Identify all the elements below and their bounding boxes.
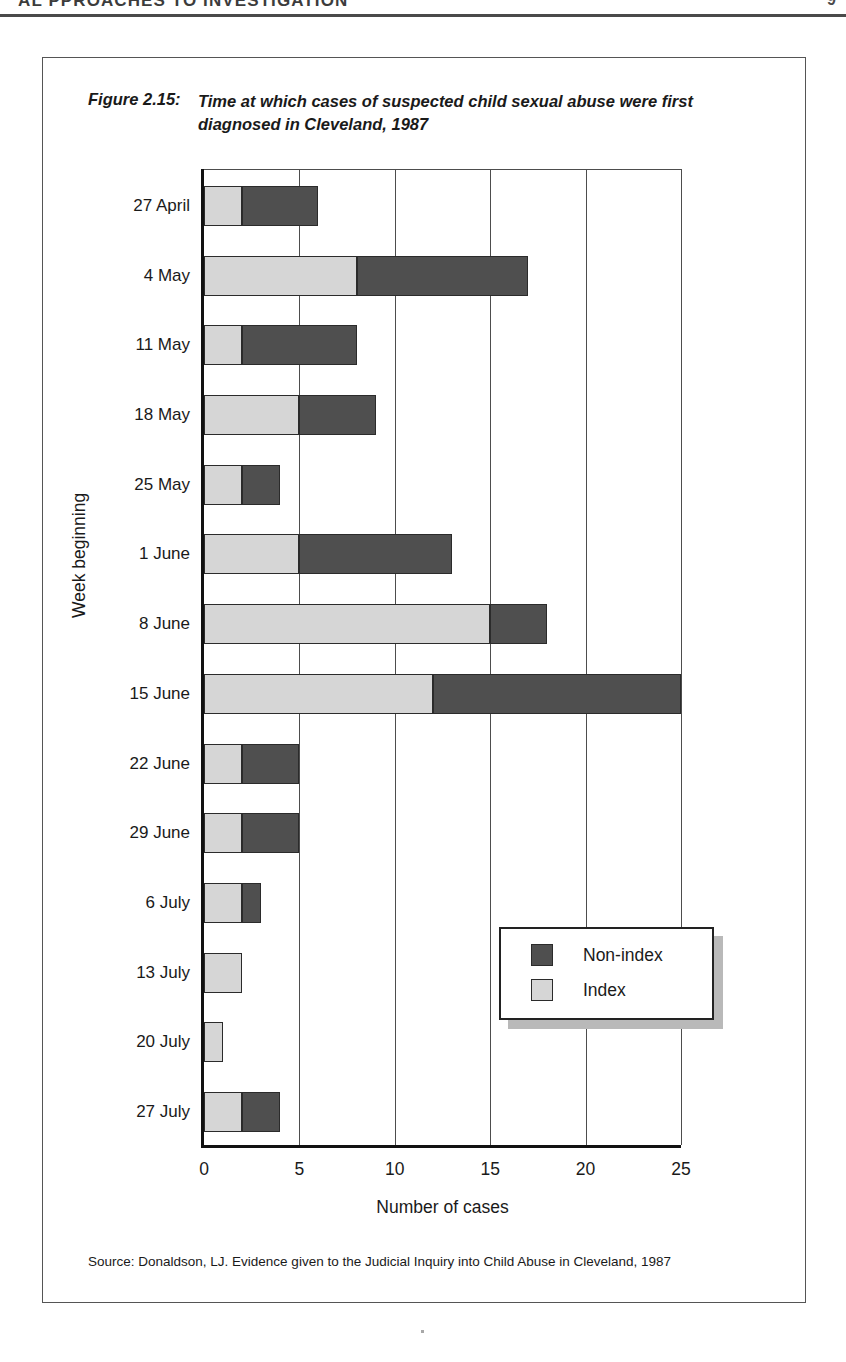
bar-row: [204, 883, 681, 923]
y-tick-label-29-june: 29 June: [130, 813, 191, 853]
legend-box: Non-index Index: [499, 927, 714, 1020]
bar-row: [204, 1092, 681, 1132]
bar-segment-non-index: [299, 395, 375, 435]
index-swatch: [531, 979, 553, 1001]
y-tick-label-25-may: 25 May: [134, 465, 190, 505]
legend-label-non-index: Non-index: [583, 945, 663, 966]
bar-segment-index: [204, 744, 242, 784]
bar-segment-index: [204, 325, 242, 365]
bar-row: [204, 813, 681, 853]
x-tick-label-10: 10: [385, 1159, 404, 1180]
nonindex-swatch: [531, 944, 553, 966]
bar-row: [204, 395, 681, 435]
bar-segment-index: [204, 1092, 242, 1132]
running-header-title: AL PPROACHES TO INVESTIGATION: [18, 0, 348, 11]
y-tick-label-15-june: 15 June: [130, 674, 191, 714]
y-tick-label-18-may: 18 May: [134, 395, 190, 435]
figure-source-note: Source: Donaldson, LJ. Evidence given to…: [88, 1254, 671, 1269]
y-tick-label-20-july: 20 July: [136, 1022, 190, 1062]
legend-item-index: Index: [531, 979, 626, 1001]
plot-top-rule: [204, 169, 681, 170]
figure-frame: Figure 2.15: Time at which cases of susp…: [42, 57, 806, 1303]
y-axis-title: Week beginning: [69, 493, 90, 618]
y-tick-label-1-june: 1 June: [139, 534, 190, 574]
figure-caption-number: Figure 2.15:: [88, 90, 198, 109]
page-running-header: AL PPROACHES TO INVESTIGATION 9: [0, 0, 846, 22]
chart-legend: Non-index Index: [499, 927, 714, 1020]
y-tick-label-8-june: 8 June: [139, 604, 190, 644]
x-tick-label-0: 0: [199, 1159, 209, 1180]
bar-row: [204, 325, 681, 365]
y-tick-label-27-july: 27 July: [136, 1092, 190, 1132]
figure-caption: Figure 2.15: Time at which cases of susp…: [88, 90, 778, 137]
bar-segment-index: [204, 395, 299, 435]
x-tick-label-15: 15: [480, 1159, 499, 1180]
bar-segment-non-index: [242, 813, 299, 853]
bar-row: [204, 604, 681, 644]
bar-segment-index: [204, 674, 433, 714]
bar-segment-index: [204, 465, 242, 505]
bar-segment-non-index: [242, 744, 299, 784]
bar-segment-non-index: [242, 1092, 280, 1132]
bar-segment-non-index: [242, 325, 356, 365]
bar-row: [204, 674, 681, 714]
bar-row: [204, 744, 681, 784]
bar-row: [204, 534, 681, 574]
bar-segment-index: [204, 1022, 223, 1062]
legend-item-non-index: Non-index: [531, 944, 663, 966]
header-divider: [0, 14, 846, 17]
y-tick-label-13-july: 13 July: [136, 953, 190, 993]
bar-segment-non-index: [242, 883, 261, 923]
page-footer-mark: [421, 1330, 424, 1333]
bar-row: [204, 186, 681, 226]
y-tick-label-22-june: 22 June: [130, 744, 191, 784]
y-tick-label-4-may: 4 May: [144, 256, 190, 296]
x-tick-label-5: 5: [295, 1159, 305, 1180]
x-axis-title: Number of cases: [204, 1197, 681, 1218]
bar-segment-non-index: [242, 186, 318, 226]
bar-segment-index: [204, 534, 299, 574]
bar-segment-index: [204, 813, 242, 853]
bar-segment-non-index: [433, 674, 681, 714]
gridline-10: [395, 169, 396, 1145]
x-tick-label-25: 25: [671, 1159, 690, 1180]
bar-segment-index: [204, 256, 357, 296]
bar-segment-index: [204, 604, 490, 644]
bar-segment-non-index: [242, 465, 280, 505]
gridline-5: [299, 169, 300, 1145]
bar-segment-index: [204, 883, 242, 923]
bar-segment-index: [204, 186, 242, 226]
bar-row: [204, 256, 681, 296]
bar-segment-index: [204, 953, 242, 993]
y-tick-label-27-april: 27 April: [133, 186, 190, 226]
y-tick-label-11-may: 11 May: [136, 325, 191, 365]
x-tick-label-20: 20: [576, 1159, 595, 1180]
bar-segment-non-index: [490, 604, 547, 644]
bar-row: [204, 465, 681, 505]
y-tick-label-6-july: 6 July: [146, 883, 190, 923]
page-number: 9: [827, 0, 836, 9]
legend-label-index: Index: [583, 980, 626, 1001]
bar-segment-non-index: [357, 256, 529, 296]
figure-caption-title: Time at which cases of suspected child s…: [198, 90, 778, 137]
bar-segment-non-index: [299, 534, 452, 574]
gridline-15: [490, 169, 491, 1145]
